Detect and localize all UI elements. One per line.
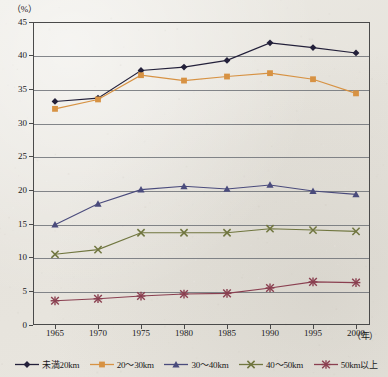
x-axis-tick-label: 2000 bbox=[336, 329, 376, 338]
y-axis-tick-label: 30 bbox=[1, 119, 27, 128]
y-axis-tick-label: 20 bbox=[1, 186, 27, 195]
data-point-square bbox=[95, 97, 101, 103]
x-axis-tick-label: 1985 bbox=[207, 329, 247, 338]
data-point-square bbox=[52, 106, 58, 112]
y-axis-tick-mark bbox=[29, 291, 33, 292]
data-point-asterisk bbox=[266, 284, 275, 293]
x-axis-tick-label: 1975 bbox=[121, 329, 161, 338]
y-axis-tick-mark bbox=[29, 22, 33, 23]
series-canvas bbox=[33, 22, 370, 325]
data-point-asterisk bbox=[180, 290, 189, 299]
data-point-square bbox=[99, 361, 105, 367]
legend-label: 30～40km bbox=[191, 358, 228, 371]
y-axis-tick-mark bbox=[29, 89, 33, 90]
y-axis-tick-mark bbox=[29, 190, 33, 191]
y-axis-tick-mark bbox=[29, 123, 33, 124]
series-diamond bbox=[52, 39, 360, 104]
legend-item[interactable]: 20～30km bbox=[89, 358, 154, 371]
data-point-asterisk bbox=[352, 278, 361, 287]
legend-symbol-diamond-icon bbox=[14, 359, 40, 370]
legend-item[interactable]: 50km以上 bbox=[313, 358, 378, 371]
y-axis-tick-label: 5 bbox=[1, 287, 27, 296]
data-point-square bbox=[181, 78, 187, 84]
data-point-diamond bbox=[267, 39, 274, 46]
y-axis-tick-label: 40 bbox=[1, 51, 27, 60]
data-point-square bbox=[224, 74, 230, 80]
chart-figure: （%） （年） 未満20km20～30km30～40km40～50km50km以… bbox=[0, 0, 388, 377]
series-cross bbox=[51, 225, 359, 258]
data-point-triangle bbox=[51, 221, 58, 227]
data-point-asterisk bbox=[137, 292, 146, 301]
legend-symbol-triangle-icon bbox=[163, 359, 189, 370]
y-axis-tick-mark bbox=[29, 55, 33, 56]
data-point-asterisk bbox=[309, 278, 318, 287]
legend-item[interactable]: 40～50km bbox=[238, 358, 303, 371]
data-point-square bbox=[310, 76, 316, 82]
data-point-diamond bbox=[181, 64, 188, 71]
data-point-diamond bbox=[224, 57, 231, 64]
y-axis-tick-mark bbox=[29, 224, 33, 225]
series-square bbox=[52, 70, 359, 111]
data-point-asterisk bbox=[223, 289, 232, 298]
y-axis-tick-mark bbox=[29, 156, 33, 157]
legend-symbol-asterisk-icon bbox=[313, 359, 339, 370]
legend: 未満20km20～30km30～40km40～50km50km以上 bbox=[14, 356, 378, 372]
y-axis-tick-mark bbox=[29, 325, 33, 326]
x-axis-tick-label: 1980 bbox=[164, 329, 204, 338]
legend-item[interactable]: 未満20km bbox=[14, 358, 79, 371]
legend-label: 50km以上 bbox=[341, 358, 378, 371]
series-asterisk bbox=[51, 278, 361, 306]
x-axis-tick-label: 1965 bbox=[35, 329, 75, 338]
y-axis-unit-label: （%） bbox=[12, 2, 37, 15]
y-axis-tick-label: 10 bbox=[1, 253, 27, 262]
y-axis-tick-label: 45 bbox=[1, 18, 27, 27]
x-axis-tick-label: 1995 bbox=[293, 329, 333, 338]
legend-label: 40～50km bbox=[266, 358, 303, 371]
x-axis-tick-label: 1970 bbox=[78, 329, 118, 338]
data-point-square bbox=[267, 70, 273, 76]
y-axis-tick-label: 15 bbox=[1, 220, 27, 229]
legend-symbol-square-icon bbox=[89, 359, 115, 370]
data-point-square bbox=[138, 72, 144, 78]
series-triangle bbox=[51, 181, 359, 227]
y-axis-tick-label: 0 bbox=[1, 321, 27, 330]
data-point-diamond bbox=[310, 44, 317, 51]
data-point-diamond bbox=[353, 50, 360, 57]
legend-label: 未満20km bbox=[42, 358, 79, 371]
series-line bbox=[55, 43, 356, 102]
data-point-triangle bbox=[266, 181, 273, 187]
data-point-square bbox=[353, 90, 359, 96]
x-axis-tick-label: 1990 bbox=[250, 329, 290, 338]
data-point-diamond bbox=[52, 98, 59, 105]
y-axis-tick-mark bbox=[29, 257, 33, 258]
data-point-asterisk bbox=[321, 360, 330, 369]
data-point-diamond bbox=[24, 361, 31, 368]
legend-symbol-cross-icon bbox=[238, 359, 264, 370]
data-point-asterisk bbox=[94, 294, 103, 303]
y-axis-tick-label: 35 bbox=[1, 85, 27, 94]
legend-item[interactable]: 30～40km bbox=[163, 358, 228, 371]
data-point-asterisk bbox=[51, 296, 60, 305]
y-axis-tick-label: 25 bbox=[1, 152, 27, 161]
legend-label: 20～30km bbox=[117, 358, 154, 371]
